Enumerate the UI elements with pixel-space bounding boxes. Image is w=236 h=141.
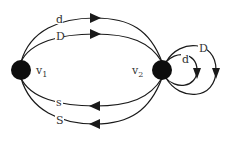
loop-label-d: d — [182, 53, 189, 66]
edge-label-s-bottom: s — [56, 96, 62, 109]
loop-label-D: D — [199, 42, 208, 55]
self-loop-v2-D: D — [166, 42, 220, 94]
edge-v2-v1-S: S — [21, 78, 162, 129]
edge-label-d-top: d — [56, 13, 63, 26]
edge-label-S-bottom: S — [56, 114, 64, 127]
arrow-right-icon — [90, 29, 101, 39]
edge-v2-v1-s: s — [21, 78, 162, 111]
arrow-down-icon — [193, 68, 201, 79]
graph-diagram: d D s S d D v1 v2 — [0, 0, 236, 141]
arrow-left-icon — [89, 101, 100, 111]
arrow-down-icon — [212, 68, 220, 79]
edge-label-D-top: D — [56, 30, 65, 43]
node-label-v1: v1 — [35, 64, 47, 79]
node-label-v2: v2 — [131, 64, 143, 79]
arrow-left-icon — [89, 119, 100, 129]
node-v2: v2 — [131, 60, 172, 80]
arrow-right-icon — [90, 13, 101, 23]
node-v1: v1 — [11, 60, 47, 80]
edge-v1-v2-D: D — [21, 29, 162, 62]
